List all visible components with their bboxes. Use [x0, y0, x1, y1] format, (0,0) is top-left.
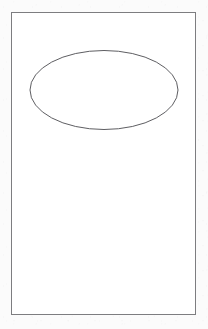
drawing-canvas: [0, 0, 208, 329]
figure-svg: [0, 0, 208, 329]
frame-rectangle: [12, 13, 196, 315]
